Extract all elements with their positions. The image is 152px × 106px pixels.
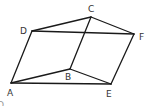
edge-ad [11, 31, 32, 83]
vertex-label-d: D [20, 26, 27, 36]
vertex-label-b: B [65, 72, 71, 82]
geometry-diagram: ABCDEF O [0, 0, 152, 106]
stray-mark: O [0, 100, 4, 106]
edge-be [70, 69, 111, 84]
vertex-label-e: E [106, 89, 112, 99]
edge-ab [11, 69, 70, 83]
vertex-label-c: C [88, 4, 94, 14]
edge-cb [70, 17, 91, 69]
edge-cf [91, 17, 134, 34]
edge-ae [11, 83, 111, 84]
edge-dc [32, 17, 91, 31]
vertex-label-a: A [7, 88, 14, 98]
edge-ef [111, 34, 134, 84]
edge-df [32, 31, 134, 34]
vertex-label-f: F [139, 32, 144, 42]
edges-group [11, 17, 134, 84]
labels-group: ABCDEF [7, 4, 144, 99]
